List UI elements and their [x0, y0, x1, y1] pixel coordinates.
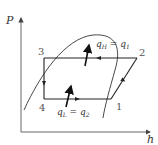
- state-label-3: 3: [38, 46, 44, 57]
- direction-arrow-2-3: [96, 56, 101, 60]
- state-label-1: 1: [116, 101, 122, 112]
- state-label-4: 4: [39, 102, 45, 113]
- heat-rejected-label: qH = q1: [96, 39, 130, 50]
- x-axis-label: h: [147, 133, 154, 145]
- ph-diagram: P h 3 2 4 1 qH = q1 qL = q2: [0, 0, 158, 145]
- state-label-2: 2: [139, 47, 145, 58]
- process-line-1-2: [111, 58, 137, 99]
- y-axis-label: P: [5, 14, 14, 27]
- direction-arrow-4-1: [75, 97, 80, 101]
- heat-absorbed-arrow: [66, 86, 71, 107]
- heat-rejected-arrow: [85, 45, 89, 66]
- heat-absorbed-label: qL = q2: [57, 107, 90, 118]
- direction-arrow-3-4: [42, 81, 46, 86]
